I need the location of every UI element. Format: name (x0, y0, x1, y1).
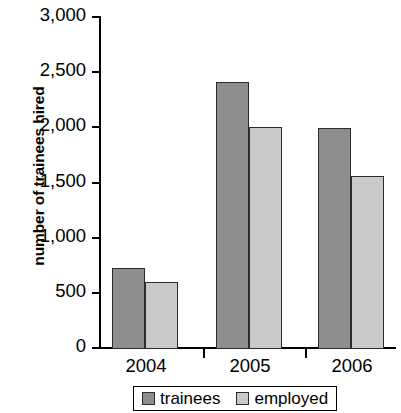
legend-label-trainees: trainees (160, 390, 220, 408)
y-tick-label-0: 0 (76, 336, 86, 356)
bar-2004-trainees (112, 268, 145, 349)
legend-entry-employed: employed (236, 390, 328, 408)
y-tick-label-3000: 3,000 (40, 5, 86, 25)
y-tick-1000: 1,000 (92, 237, 101, 239)
bar-2006-employed (351, 176, 384, 349)
y-tick-label-2000: 2,000 (40, 115, 86, 135)
legend-swatch-employed-icon (236, 392, 249, 405)
bar-2005-trainees (216, 82, 249, 349)
y-tick-2000: 2,000 (92, 126, 101, 128)
y-tick-label-1000: 1,000 (40, 226, 86, 246)
bar-2004-employed (145, 282, 178, 349)
x-tick-label-2006: 2006 (312, 355, 392, 377)
x-tick-label-2004: 2004 (106, 355, 186, 377)
x-tick-separator-2 (305, 349, 307, 358)
legend-label-employed: employed (254, 390, 328, 408)
y-tick-1500: 1,500 (92, 182, 101, 184)
legend-entry-trainees: trainees (142, 390, 220, 408)
bar-2006-trainees (318, 128, 351, 349)
x-tick-separator-1 (203, 349, 205, 358)
y-tick-0: 0 (92, 347, 101, 349)
y-tick-500: 500 (92, 292, 101, 294)
chart-legend: trainees employed (133, 386, 337, 411)
y-tick-label-2500: 2,500 (40, 60, 86, 80)
y-tick-3000: 3,000 (92, 16, 101, 18)
y-tick-label-1500: 1,500 (40, 171, 86, 191)
y-tick-2500: 2,500 (92, 71, 101, 73)
bar-chart: number of trainees hired 3,000 2,500 2,0… (0, 0, 401, 413)
bar-2005-employed (249, 127, 282, 349)
plot-area: 3,000 2,500 2,000 1,500 1,000 500 0 (99, 16, 396, 349)
x-tick-label-2005: 2005 (210, 355, 290, 377)
legend-swatch-trainees-icon (142, 392, 155, 405)
y-tick-label-500: 500 (55, 281, 86, 301)
